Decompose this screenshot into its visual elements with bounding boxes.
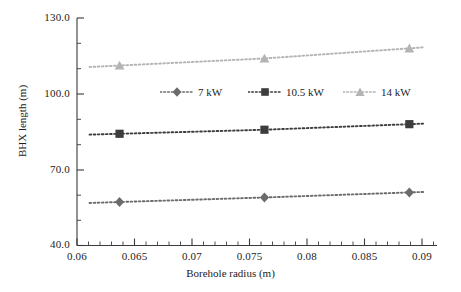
legend-swatch-14kw bbox=[343, 85, 377, 99]
x-tick-label-4: 0.08 bbox=[282, 250, 332, 262]
x-tick-label-1: 0.065 bbox=[110, 250, 160, 262]
series-line-14kw bbox=[90, 47, 425, 67]
chart-figure: 130.0 100.0 70.0 40.0 0.06 0.065 0.07 0.… bbox=[0, 0, 461, 292]
series-line-7kw bbox=[90, 192, 425, 203]
x-axis-title: Borehole radius (m) bbox=[0, 267, 461, 279]
legend-item-105kw: 10.5 kW bbox=[248, 85, 324, 99]
legend-label-14kw: 14 kW bbox=[380, 86, 411, 98]
x-tick-label-2: 0.07 bbox=[167, 250, 217, 262]
legend-item-7kw: 7 kW bbox=[160, 85, 222, 99]
data-point-7kw-2 bbox=[405, 187, 414, 197]
series-14kw bbox=[90, 44, 425, 70]
x-tick-label-3: 0.075 bbox=[225, 250, 275, 262]
x-tick-label-5: 0.085 bbox=[340, 250, 390, 262]
y-minor-ticks bbox=[77, 43, 81, 220]
data-point-105kw-1 bbox=[260, 126, 268, 134]
data-point-105kw-0 bbox=[115, 130, 123, 138]
legend-swatch-105kw bbox=[248, 85, 282, 99]
legend-label-105kw: 10.5 kW bbox=[285, 86, 324, 98]
data-point-7kw-1 bbox=[260, 192, 269, 202]
legend-swatch-7kw bbox=[160, 85, 194, 99]
series-line-105kw bbox=[90, 124, 425, 135]
data-point-7kw-0 bbox=[115, 197, 124, 207]
x-major-ticks bbox=[77, 239, 422, 246]
y-tick-label-130: 130.0 bbox=[20, 11, 70, 23]
data-point-105kw-2 bbox=[405, 120, 413, 128]
x-tick-label-6: 0.09 bbox=[397, 250, 447, 262]
series-7kw bbox=[90, 187, 425, 207]
data-series-layer bbox=[90, 44, 425, 207]
y-axis-title: BHX length (m) bbox=[16, 51, 28, 191]
y-tick-label-40: 40.0 bbox=[20, 238, 70, 250]
axis-lines bbox=[77, 18, 437, 246]
legend-item-14kw: 14 kW bbox=[343, 85, 411, 99]
legend-label-7kw: 7 kW bbox=[197, 86, 222, 98]
x-minor-ticks bbox=[89, 242, 434, 246]
y-major-ticks bbox=[77, 18, 84, 246]
series-105kw bbox=[90, 120, 425, 138]
x-tick-label-0: 0.06 bbox=[52, 250, 102, 262]
